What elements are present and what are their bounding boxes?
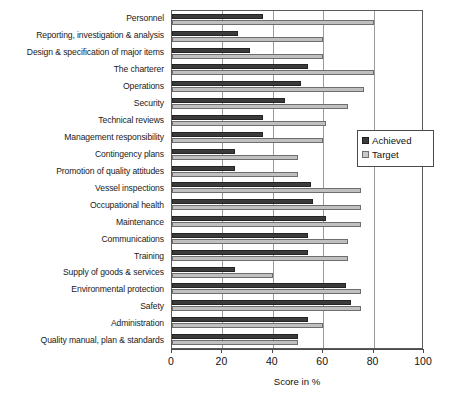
x-tick-label: 40 bbox=[266, 355, 278, 367]
bar-achieved[interactable] bbox=[172, 182, 311, 187]
category-label: Contingency plans bbox=[0, 146, 168, 163]
bar-target[interactable] bbox=[172, 306, 361, 311]
bar-target[interactable] bbox=[172, 104, 348, 109]
bar-rows bbox=[172, 11, 422, 348]
category-label: Security bbox=[0, 95, 168, 112]
bar-achieved[interactable] bbox=[172, 132, 263, 137]
category-label: Operations bbox=[0, 78, 168, 95]
category-label: Occupational health bbox=[0, 196, 168, 213]
bar-group bbox=[172, 78, 422, 95]
bar-achieved[interactable] bbox=[172, 233, 308, 238]
x-tick-label: 80 bbox=[367, 355, 379, 367]
x-axis-line bbox=[171, 349, 423, 350]
bar-achieved[interactable] bbox=[172, 149, 235, 154]
bar-target[interactable] bbox=[172, 37, 323, 42]
bar-achieved[interactable] bbox=[172, 31, 238, 36]
bar-group bbox=[172, 297, 422, 314]
bar-group bbox=[172, 196, 422, 213]
category-label: Administration bbox=[0, 315, 168, 332]
bar-achieved[interactable] bbox=[172, 334, 298, 339]
bar-group bbox=[172, 331, 422, 348]
bar-target[interactable] bbox=[172, 155, 298, 160]
category-label: Personnel bbox=[0, 10, 168, 27]
bar-target[interactable] bbox=[172, 323, 323, 328]
bar-achieved[interactable] bbox=[172, 267, 235, 272]
bar-target[interactable] bbox=[172, 239, 348, 244]
category-label: Training bbox=[0, 247, 168, 264]
category-label: Design & specification of major items bbox=[0, 44, 168, 61]
bar-chart: PersonnelReporting, investigation & anal… bbox=[0, 0, 449, 413]
category-label: Environmental protection bbox=[0, 281, 168, 298]
category-label: Management responsibility bbox=[0, 129, 168, 146]
bar-target[interactable] bbox=[172, 273, 273, 278]
x-tick-label: 20 bbox=[216, 355, 228, 367]
bar-group bbox=[172, 247, 422, 264]
bar-target[interactable] bbox=[172, 87, 364, 92]
category-label: Safety bbox=[0, 298, 168, 315]
bar-achieved[interactable] bbox=[172, 14, 263, 19]
legend-label-achieved: Achieved bbox=[372, 134, 411, 148]
bar-achieved[interactable] bbox=[172, 250, 308, 255]
bar-achieved[interactable] bbox=[172, 300, 351, 305]
x-axis-title: Score in % bbox=[171, 376, 423, 387]
category-label: The charterer bbox=[0, 61, 168, 78]
bar-target[interactable] bbox=[172, 222, 361, 227]
bar-achieved[interactable] bbox=[172, 166, 235, 171]
category-label: Vessel inspections bbox=[0, 180, 168, 197]
x-tick-label: 100 bbox=[414, 355, 432, 367]
bar-group bbox=[172, 264, 422, 281]
bar-achieved[interactable] bbox=[172, 64, 308, 69]
plot-area bbox=[171, 10, 423, 349]
bar-target[interactable] bbox=[172, 172, 298, 177]
legend-item-achieved: Achieved bbox=[362, 134, 429, 148]
category-label: Promotion of quality attitudes bbox=[0, 163, 168, 180]
bar-achieved[interactable] bbox=[172, 216, 326, 221]
bar-group bbox=[172, 281, 422, 298]
bar-group bbox=[172, 112, 422, 129]
chart-legend: Achieved Target bbox=[357, 130, 434, 167]
bar-group bbox=[172, 314, 422, 331]
bar-target[interactable] bbox=[172, 256, 348, 261]
bar-target[interactable] bbox=[172, 138, 323, 143]
bar-achieved[interactable] bbox=[172, 81, 301, 86]
bar-achieved[interactable] bbox=[172, 98, 285, 103]
bar-target[interactable] bbox=[172, 20, 374, 25]
bar-target[interactable] bbox=[172, 121, 326, 126]
category-label: Technical reviews bbox=[0, 112, 168, 129]
category-label: Communications bbox=[0, 230, 168, 247]
bar-group bbox=[172, 45, 422, 62]
legend-swatch-achieved-icon bbox=[362, 137, 369, 144]
category-label: Maintenance bbox=[0, 213, 168, 230]
x-tick bbox=[373, 349, 374, 353]
bar-achieved[interactable] bbox=[172, 115, 263, 120]
category-label: Reporting, investigation & analysis bbox=[0, 27, 168, 44]
legend-label-target: Target bbox=[372, 148, 399, 162]
bar-target[interactable] bbox=[172, 54, 323, 59]
bar-group bbox=[172, 28, 422, 45]
bar-achieved[interactable] bbox=[172, 283, 346, 288]
bar-achieved[interactable] bbox=[172, 199, 313, 204]
x-tick bbox=[322, 349, 323, 353]
bar-group bbox=[172, 179, 422, 196]
bar-target[interactable] bbox=[172, 188, 361, 193]
bar-achieved[interactable] bbox=[172, 48, 250, 53]
bar-target[interactable] bbox=[172, 70, 374, 75]
category-label: Supply of goods & services bbox=[0, 264, 168, 281]
bar-target[interactable] bbox=[172, 289, 361, 294]
x-tick-label: 0 bbox=[168, 355, 174, 367]
bar-group bbox=[172, 230, 422, 247]
x-tick bbox=[423, 349, 424, 353]
bar-achieved[interactable] bbox=[172, 317, 308, 322]
bar-target[interactable] bbox=[172, 205, 361, 210]
x-tick-label: 60 bbox=[316, 355, 328, 367]
legend-item-target: Target bbox=[362, 148, 429, 162]
category-label: Quality manual, plan & standards bbox=[0, 332, 168, 349]
bar-group bbox=[172, 62, 422, 79]
x-tick bbox=[221, 349, 222, 353]
x-tick bbox=[272, 349, 273, 353]
bar-group bbox=[172, 95, 422, 112]
bar-target[interactable] bbox=[172, 340, 298, 345]
legend-swatch-target-icon bbox=[362, 151, 369, 158]
category-axis-labels: PersonnelReporting, investigation & anal… bbox=[0, 10, 168, 349]
bar-group bbox=[172, 213, 422, 230]
